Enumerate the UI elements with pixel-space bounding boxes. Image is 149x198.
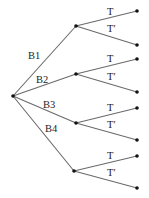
leaf-node-b3-t (135, 106, 139, 110)
branch-node-b2 (74, 72, 78, 76)
branch-label-b2: B2 (36, 74, 48, 85)
outcome-label-b3-t: T (107, 102, 114, 113)
leaf-node-b1-t (135, 9, 139, 13)
tree-edges (13, 11, 137, 188)
branch-node-b4 (72, 169, 76, 173)
leaf-node-b4-t-prime (135, 186, 139, 190)
edge-b4-to-t-prime (74, 171, 137, 188)
branch-node-b1 (74, 24, 78, 28)
branch-label-b3: B3 (43, 99, 55, 110)
outcome-label-b1-t: T (107, 6, 114, 17)
edge-b4-to-t (74, 156, 137, 171)
outcome-label-b2-t-prime: T′ (107, 71, 116, 82)
probability-tree-diagram: B1B2B3B4TT′TT′TT′TT′ (0, 0, 149, 198)
leaf-node-b1-t-prime (135, 43, 139, 47)
tree-labels: B1B2B3B4TT′TT′TT′TT′ (28, 6, 116, 178)
outcome-label-b2-t: T (107, 53, 114, 64)
outcome-label-b3-t-prime: T′ (107, 119, 116, 130)
outcome-label-b4-t-prime: T′ (107, 167, 116, 178)
leaf-node-b3-t-prime (135, 138, 139, 142)
branch-node-b3 (74, 121, 78, 125)
root-node (11, 94, 15, 98)
outcome-label-b1-t-prime: T′ (107, 23, 116, 34)
leaf-node-b4-t (135, 154, 139, 158)
branch-label-b1: B1 (28, 50, 40, 61)
leaf-node-b2-t (135, 57, 139, 61)
tree-nodes (11, 9, 139, 190)
leaf-node-b2-t-prime (135, 90, 139, 94)
branch-label-b4: B4 (45, 123, 58, 134)
outcome-label-b4-t: T (107, 150, 114, 161)
